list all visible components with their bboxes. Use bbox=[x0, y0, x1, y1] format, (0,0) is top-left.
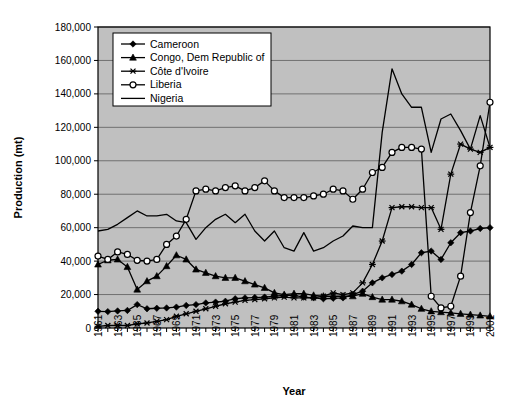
marker-circle bbox=[428, 293, 434, 299]
x-tick-label: 1997 bbox=[446, 314, 457, 337]
marker-circle bbox=[360, 186, 366, 192]
x-tick-label: 1999 bbox=[465, 314, 476, 337]
marker-circle bbox=[124, 251, 130, 257]
legend-label-1: Cameroon bbox=[150, 38, 199, 50]
y-tick-label: 80,000 bbox=[60, 189, 91, 200]
marker-circle bbox=[203, 186, 209, 192]
marker-circle bbox=[105, 256, 111, 262]
legend-label-2: Congo, Dem Republic of bbox=[150, 51, 264, 63]
marker-circle bbox=[311, 193, 317, 199]
marker-circle bbox=[232, 183, 238, 189]
y-tick-label: 20,000 bbox=[60, 289, 91, 300]
legend-label-3: Côte d'Ivoire bbox=[150, 65, 209, 77]
chart-page: 020,00040,00060,00080,000100,000120,0001… bbox=[0, 0, 512, 403]
marker-circle bbox=[144, 258, 150, 264]
marker-circle bbox=[418, 146, 424, 152]
marker-circle bbox=[242, 188, 248, 194]
marker-circle bbox=[193, 188, 199, 194]
marker-circle bbox=[350, 196, 356, 202]
x-tick-label: 1981 bbox=[289, 314, 300, 337]
x-tick-label: 1989 bbox=[367, 314, 378, 337]
y-tick-label: 140,000 bbox=[55, 88, 92, 99]
marker-circle bbox=[438, 305, 444, 311]
x-tick-label: 1973 bbox=[211, 314, 222, 337]
x-tick-label: 1985 bbox=[328, 314, 339, 337]
x-tick-label: 1983 bbox=[309, 314, 320, 337]
x-axis: 1961196319651967196919711973197519771979… bbox=[93, 314, 496, 337]
marker-circle bbox=[164, 241, 170, 247]
marker-circle bbox=[115, 249, 121, 255]
legend-label-5: Nigeria bbox=[150, 92, 183, 104]
marker-circle bbox=[252, 185, 258, 191]
marker-circle bbox=[379, 164, 385, 170]
marker-circle bbox=[320, 191, 326, 197]
x-tick-label: 1987 bbox=[348, 314, 359, 337]
x-tick-label: 1991 bbox=[387, 314, 398, 337]
marker-circle bbox=[213, 188, 219, 194]
x-tick-label: 1977 bbox=[250, 314, 261, 337]
legend: CameroonCongo, Dem Republic ofCôte d'Ivo… bbox=[113, 33, 271, 106]
legend-label-4: Liberia bbox=[150, 78, 182, 90]
marker-circle bbox=[281, 195, 287, 201]
x-tick-label: 1975 bbox=[230, 314, 241, 337]
production-line-chart: 020,00040,00060,00080,000100,000120,0001… bbox=[0, 0, 512, 403]
x-tick-label: 1965 bbox=[132, 314, 143, 337]
y-tick-label: 180,000 bbox=[55, 22, 92, 33]
marker-circle bbox=[458, 273, 464, 279]
marker-circle bbox=[301, 195, 307, 201]
y-axis: 020,00040,00060,00080,000100,000120,0001… bbox=[55, 22, 98, 334]
y-tick-label: 100,000 bbox=[55, 155, 92, 166]
marker-circle bbox=[154, 256, 160, 262]
marker-circle bbox=[399, 144, 405, 150]
x-tick-label: 1995 bbox=[426, 314, 437, 337]
x-tick-label: 1967 bbox=[152, 314, 163, 337]
marker-circle bbox=[448, 303, 454, 309]
x-tick-label: 1993 bbox=[407, 314, 418, 337]
marker-circle bbox=[477, 163, 483, 169]
x-tick-label: 1971 bbox=[191, 314, 202, 337]
y-tick-label: 160,000 bbox=[55, 55, 92, 66]
marker-circle bbox=[330, 186, 336, 192]
y-tick-label: 0 bbox=[85, 323, 91, 334]
marker-circle bbox=[271, 188, 277, 194]
marker-circle bbox=[369, 169, 375, 175]
y-axis-title: Production (mt) bbox=[12, 136, 24, 218]
marker-circle bbox=[409, 144, 415, 150]
marker-circle bbox=[467, 210, 473, 216]
y-tick-label: 40,000 bbox=[60, 256, 91, 267]
marker-circle bbox=[173, 233, 179, 239]
marker-circle bbox=[389, 149, 395, 155]
x-axis-title: Year bbox=[282, 385, 306, 397]
y-tick-label: 120,000 bbox=[55, 122, 92, 133]
marker-circle bbox=[130, 82, 136, 88]
marker-circle bbox=[291, 195, 297, 201]
marker-circle bbox=[134, 257, 140, 263]
marker-circle bbox=[95, 253, 101, 259]
marker-circle bbox=[487, 99, 493, 105]
marker-circle bbox=[262, 178, 268, 184]
marker-circle bbox=[222, 185, 228, 191]
x-tick-label: 1979 bbox=[269, 314, 280, 337]
marker-circle bbox=[183, 216, 189, 222]
marker-circle bbox=[340, 188, 346, 194]
y-tick-label: 60,000 bbox=[60, 222, 91, 233]
